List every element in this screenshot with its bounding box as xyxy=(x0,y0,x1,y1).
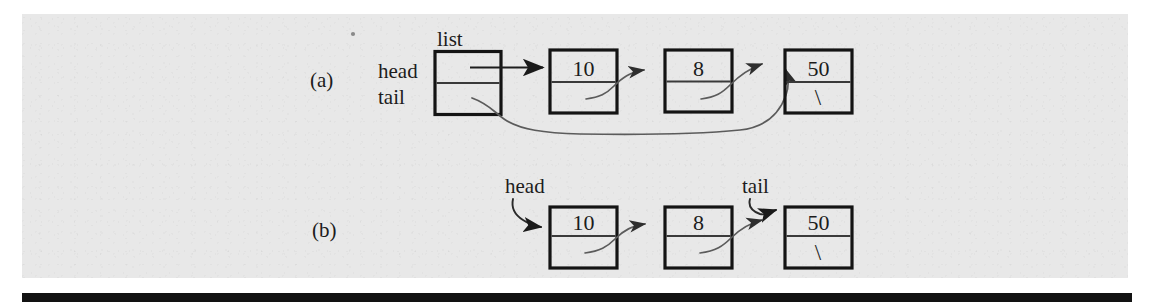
node-b-8-value: 8 xyxy=(693,210,704,235)
node-b-50-value: 50 xyxy=(808,210,830,235)
node-b-10-value: 10 xyxy=(573,210,595,235)
node-a-50-null-glyph: \ xyxy=(815,85,822,110)
linked-list-diagram: (a) list head tail 10 8 xyxy=(0,0,1156,307)
panel-b-head-label: head xyxy=(505,174,545,198)
pointer-b-tail-to-node-50 xyxy=(749,199,776,215)
panel-b-tail-label: tail xyxy=(742,174,769,198)
panel-a-label: (a) xyxy=(310,68,333,92)
linked-list-figure: (a) list head tail 10 8 xyxy=(0,0,1156,307)
list-field-label-tail: tail xyxy=(378,85,405,109)
scan-speck xyxy=(351,32,355,36)
pointer-node-a-10-next xyxy=(586,70,644,99)
list-field-label-head: head xyxy=(378,59,418,83)
node-a-8-value: 8 xyxy=(693,56,704,81)
panel-b-label: (b) xyxy=(312,218,337,242)
node-a-10-value: 10 xyxy=(573,56,595,81)
panel-b: (b) head 10 8 tail 50 \ xyxy=(312,174,852,268)
page-bottom-rule xyxy=(22,293,1132,302)
list-struct-caption: list xyxy=(437,27,463,51)
node-b-50-null-glyph: \ xyxy=(815,240,822,265)
node-a-50-value: 50 xyxy=(808,56,830,81)
pointer-list-tail-to-node-50 xyxy=(472,70,788,134)
panel-a: (a) list head tail 10 8 xyxy=(310,27,852,134)
pointer-b-head-to-node-10 xyxy=(512,199,541,227)
